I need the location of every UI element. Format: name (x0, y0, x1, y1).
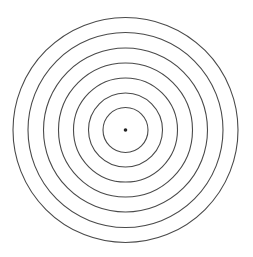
concentric-circles-diagram (0, 0, 253, 257)
rings-svg (0, 0, 253, 257)
center-dot (124, 128, 128, 132)
